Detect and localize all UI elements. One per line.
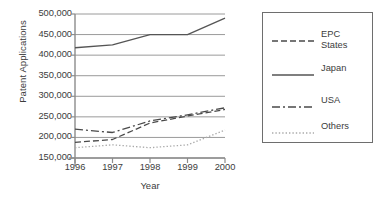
- legend-item-usa[interactable]: USA: [271, 97, 371, 119]
- chart-legend: EPC StatesJapanUSAOthers: [262, 12, 373, 143]
- x-tick-label: 1996: [55, 162, 95, 172]
- legend-label: USA: [321, 95, 340, 106]
- x-axis-title: Year: [75, 180, 225, 191]
- legend-item-epc-states[interactable]: EPC States: [271, 31, 371, 53]
- legend-item-japan[interactable]: Japan: [271, 65, 371, 87]
- x-tick-label: 1999: [168, 162, 208, 172]
- x-tick-label: 2000: [205, 162, 245, 172]
- legend-swatch-dashdot-icon: [271, 102, 315, 112]
- legend-item-others[interactable]: Others: [271, 123, 371, 145]
- legend-label: EPC States: [321, 29, 347, 51]
- legend-label: Japan: [321, 63, 346, 74]
- x-tick-label: 1998: [130, 162, 170, 172]
- x-tick-label: 1997: [93, 162, 133, 172]
- legend-swatch-dashed-icon: [271, 36, 315, 46]
- chart-figure: Patent Applications 500,000450,000400,00…: [0, 0, 380, 201]
- legend-label: Others: [321, 121, 349, 132]
- legend-swatch-solid-icon: [271, 70, 315, 80]
- legend-swatch-dotted-icon: [271, 128, 315, 138]
